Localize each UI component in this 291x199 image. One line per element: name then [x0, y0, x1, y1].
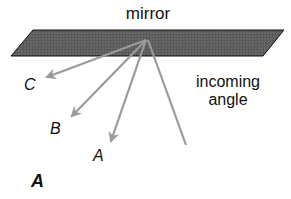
reflection-diagram: mirror C B A incoming angle A — [0, 0, 291, 199]
incoming-label-line2: angle — [208, 91, 247, 108]
mirror-label: mirror — [126, 4, 171, 23]
ray-a-label: A — [92, 147, 104, 164]
incoming-label-line1: incoming — [196, 73, 260, 90]
ray-c-label: C — [24, 76, 36, 93]
mirror-surface — [11, 30, 284, 56]
ray-b-label: B — [50, 120, 61, 137]
panel-label: A — [30, 171, 44, 191]
